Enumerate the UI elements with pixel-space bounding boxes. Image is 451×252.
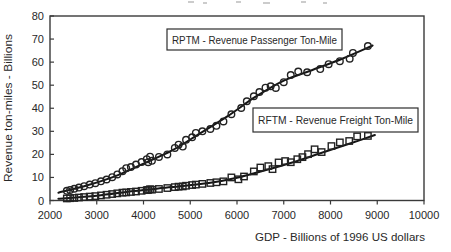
x-tick-label: 2000 bbox=[38, 209, 62, 221]
y-tick-label: 30 bbox=[32, 125, 44, 137]
scatter-chart: 2000300040005000600070008000900010000 01… bbox=[0, 0, 451, 252]
cropped-text-artifact bbox=[188, 1, 327, 4]
y-tick-label: 20 bbox=[32, 148, 44, 160]
y-tick-label: 50 bbox=[32, 79, 44, 91]
x-tick-label: 3000 bbox=[85, 209, 109, 221]
data-point-square bbox=[257, 164, 263, 170]
x-tick-label: 10000 bbox=[409, 209, 440, 221]
y-tick-label: 80 bbox=[32, 10, 44, 22]
y-tick-label: 10 bbox=[32, 171, 44, 183]
y-tick-label: 0 bbox=[38, 195, 44, 207]
data-point-square bbox=[354, 133, 360, 139]
x-tick-label: 9000 bbox=[365, 209, 389, 221]
y-tick-label: 60 bbox=[32, 56, 44, 68]
x-axis-title: GDP - Billions of 1996 US dollars bbox=[255, 231, 426, 243]
legend-rptm-label: RPTM - Revenue Passenger Ton-Mile bbox=[172, 34, 337, 46]
legend-rptm: RPTM - Revenue Passenger Ton-Mile bbox=[167, 29, 342, 50]
legend-rftm-label: RFTM - Revenue Freight Ton-Mile bbox=[258, 114, 413, 126]
x-axis-tick-labels: 2000300040005000600070008000900010000 bbox=[38, 209, 440, 221]
x-tick-label: 7000 bbox=[272, 209, 296, 221]
legend-rftm: RFTM - Revenue Freight Ton-Mile bbox=[253, 108, 418, 132]
series-rftm bbox=[58, 133, 375, 202]
x-tick-label: 6000 bbox=[225, 209, 249, 221]
data-point-square bbox=[337, 139, 343, 145]
y-axis-tick-labels: 01020304050607080 bbox=[32, 10, 44, 207]
y-tick-label: 40 bbox=[32, 102, 44, 114]
x-tick-label: 4000 bbox=[131, 209, 155, 221]
data-point-square bbox=[275, 159, 281, 165]
x-tick-label: 8000 bbox=[318, 209, 342, 221]
x-tick-label: 5000 bbox=[178, 209, 202, 221]
figure: 2000300040005000600070008000900010000 01… bbox=[0, 0, 451, 252]
y-axis-title: Revenue ton-miles - Billions bbox=[2, 33, 14, 182]
trend-line-rftm bbox=[58, 135, 375, 199]
y-tick-label: 70 bbox=[32, 33, 44, 45]
data-point-square bbox=[311, 146, 317, 152]
